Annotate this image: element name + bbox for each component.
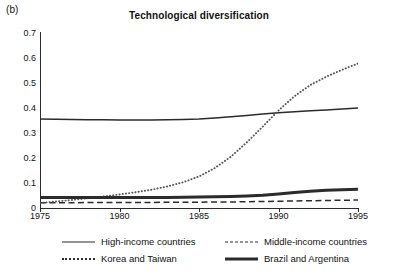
x-tick-label: 1985 [189,211,209,221]
legend-label: Middle-income countries [264,236,367,247]
x-tick-mark [358,208,359,212]
legend-item[interactable]: Brazil and Argentina [225,253,349,264]
plot-lines [40,33,358,209]
legend-item[interactable]: High-income countries [62,236,196,247]
y-tick-label: 0.6 [23,53,36,63]
legend-swatch-dashed-icon [225,237,258,247]
legend-swatch-dotted-icon [62,254,95,264]
legend-swatch-solid-icon [62,237,95,247]
chart-legend: High-income countriesMiddle-income count… [0,233,398,271]
figure: (b) Technological diversification 00.10.… [0,0,398,271]
x-tick-label: 1995 [348,211,368,221]
legend-item[interactable]: Middle-income countries [225,236,367,247]
series-line [40,108,358,120]
x-tick-label: 1975 [30,211,50,221]
legend-label: Brazil and Argentina [264,253,349,264]
series-line [40,189,358,197]
chart-title: Technological diversification [0,10,398,21]
legend-label: High-income countries [101,236,196,247]
y-tick-label: 0.7 [23,28,36,38]
y-tick-label: 0.4 [23,103,36,113]
x-tick-label: 1990 [268,211,288,221]
series-line [40,200,358,203]
y-tick-label: 0.3 [23,128,36,138]
series-line [40,64,358,204]
legend-label: Korea and Taiwan [101,253,177,264]
y-tick-label: 0.2 [23,153,36,163]
y-tick-label: 0.5 [23,78,36,88]
y-tick-label: 0.1 [23,178,36,188]
legend-item[interactable]: Korea and Taiwan [62,253,177,264]
x-tick-label: 1980 [109,211,129,221]
legend-swatch-thick-icon [225,254,258,264]
